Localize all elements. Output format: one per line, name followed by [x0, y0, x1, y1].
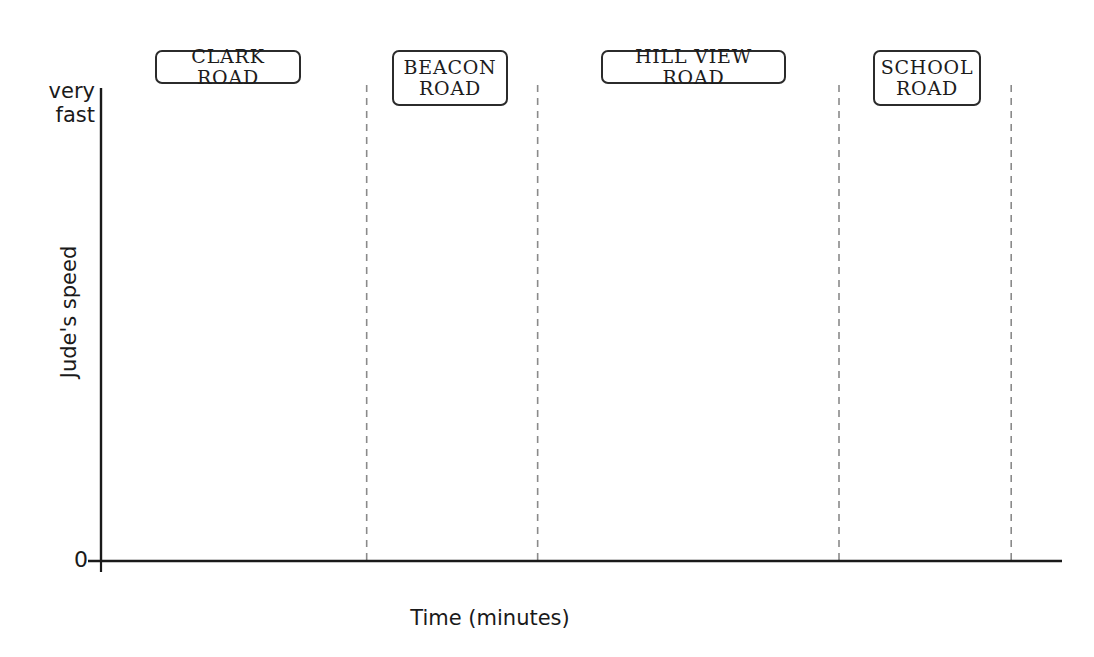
y-axis-title: Jude's speed — [57, 222, 81, 402]
road-sign-beacon-road: BEACON ROAD — [392, 50, 508, 106]
section-divider-lines — [367, 85, 1012, 561]
y-axis-zero-label: 0 — [62, 547, 88, 572]
x-axis-title: Time (minutes) — [390, 606, 590, 630]
axis-lines — [88, 88, 1062, 561]
road-sign-school-road: SCHOOL ROAD — [873, 50, 981, 106]
road-sign-hill-view-road: HILL VIEW ROAD — [601, 50, 786, 84]
speed-time-chart: CLARK ROAD BEACON ROAD HILL VIEW ROAD SC… — [0, 0, 1094, 657]
y-axis-max-label: very fast — [35, 80, 95, 127]
road-sign-clark-road: CLARK ROAD — [155, 50, 301, 84]
